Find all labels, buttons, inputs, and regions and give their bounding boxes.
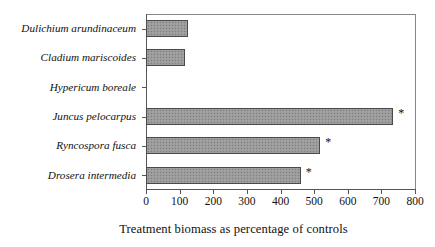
bar (146, 167, 301, 184)
x-axis-tick-label: 800 (395, 195, 435, 207)
x-axis-tick (247, 190, 248, 194)
y-axis-tick (142, 117, 146, 118)
y-axis-tick (142, 29, 146, 30)
significance-asterisk: * (306, 165, 312, 179)
bar (146, 20, 188, 37)
x-axis-tick (348, 190, 349, 194)
category-label: Drosera intermedia (48, 161, 136, 190)
y-axis-tick (142, 87, 146, 88)
x-axis-tick (146, 190, 147, 194)
bar (146, 49, 185, 66)
category-label: Dulichium arundinaceum (21, 14, 136, 43)
category-label: Cladium mariscoides (41, 43, 136, 72)
category-label: Juncus pelocarpus (52, 102, 136, 131)
bar-row: * (146, 102, 416, 131)
significance-asterisk: * (325, 135, 331, 149)
x-axis-tick (381, 190, 382, 194)
category-label: Ryncospora fusca (56, 131, 136, 160)
x-axis-tick (281, 190, 282, 194)
plot-area: *** 0100200300400500600700800 (146, 14, 416, 190)
x-axis-tick (415, 190, 416, 194)
category-label: Hypericum boreale (50, 73, 136, 102)
chart-figure: Dulichium arundinaceumCladium mariscoide… (0, 0, 435, 247)
bar-row (146, 14, 416, 43)
x-axis-tick (314, 190, 315, 194)
category-axis-labels: Dulichium arundinaceumCladium mariscoide… (0, 14, 142, 190)
x-axis-title: Treatment biomass as percentage of contr… (0, 222, 435, 237)
bar-row: * (146, 131, 416, 160)
bar (146, 108, 393, 125)
y-axis-tick (142, 58, 146, 59)
y-axis-tick (142, 175, 146, 176)
bar-row (146, 43, 416, 72)
bar-row (146, 73, 416, 102)
x-axis-tick (213, 190, 214, 194)
bar (146, 137, 320, 154)
y-axis-tick (142, 146, 146, 147)
x-axis-tick (180, 190, 181, 194)
significance-asterisk: * (398, 106, 404, 120)
bar-row: * (146, 161, 416, 190)
bar-series: *** (146, 14, 416, 190)
